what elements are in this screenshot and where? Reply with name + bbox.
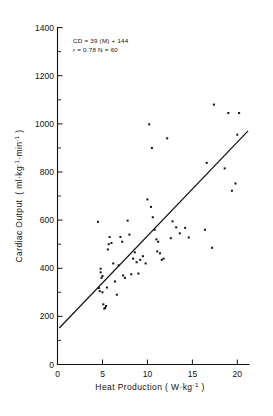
data-point (119, 236, 121, 238)
x-axis-title: Heat Production ( W·kg-1 ) (95, 382, 204, 392)
y-tick-label-1000: 1000 (35, 119, 54, 129)
y-tick-labels: 0 200 400 600 800 1000 1200 1400 (35, 23, 54, 370)
scatter-points-group (97, 104, 240, 310)
data-point (101, 277, 103, 279)
data-point (100, 268, 102, 270)
data-point (238, 112, 240, 114)
data-point (116, 294, 118, 296)
x-tick-labels: 0 5 10 15 20 (55, 369, 242, 379)
data-point (127, 220, 129, 222)
data-point (145, 262, 147, 264)
data-point (155, 238, 157, 240)
plot-canvas: 0 200 400 600 800 1000 1200 1400 0 5 10 … (0, 0, 273, 416)
data-point (224, 167, 226, 169)
data-point (151, 147, 153, 149)
data-point (150, 206, 152, 208)
data-point (148, 123, 150, 125)
data-point (156, 250, 158, 252)
data-point (104, 307, 106, 309)
y-tick-label-800: 800 (40, 167, 54, 177)
scatter-plot-figure: 0 200 400 600 800 1000 1200 1400 0 5 10 … (0, 0, 273, 416)
regression-equation-text: CD = 39 (M) + 144 (73, 37, 129, 44)
x-tick-label-15: 15 (188, 369, 198, 379)
data-point (137, 273, 139, 275)
y-axis-title-unit-close: ) (14, 130, 24, 136)
data-point (139, 259, 141, 261)
data-point (99, 290, 101, 292)
data-point (118, 264, 120, 266)
data-point (170, 237, 172, 239)
data-point (213, 104, 215, 106)
data-point (134, 251, 136, 253)
regression-stats-text: r = 0.78 N = 60 (73, 46, 118, 53)
data-point (159, 252, 161, 254)
x-axis-title-tail: ) (199, 382, 205, 392)
data-point (179, 232, 181, 234)
data-point (114, 280, 116, 282)
data-point (121, 241, 123, 243)
y-tick-label-1200: 1200 (35, 71, 54, 81)
y-axis-title-main: Cardiac Output (14, 199, 24, 262)
y-axis-title: Cardiac Output( ml·kg-1·min-1 ) (14, 130, 24, 263)
data-point (175, 226, 177, 228)
data-point (128, 234, 130, 236)
y-tick-label-0: 0 (49, 360, 54, 370)
data-point (157, 241, 159, 243)
data-point (101, 275, 103, 277)
x-axis-major-ticks (58, 360, 238, 365)
data-point (211, 247, 213, 249)
data-point (105, 305, 107, 307)
data-point (236, 134, 238, 136)
y-axis-title-unit-mid: ·min (14, 142, 24, 160)
data-point (124, 277, 126, 279)
data-point (136, 261, 138, 263)
data-point (146, 198, 148, 200)
y-tick-label-1400: 1400 (35, 23, 54, 33)
data-point (107, 248, 109, 250)
axes-group (58, 28, 250, 365)
y-tick-label-200: 200 (40, 311, 54, 321)
data-point (110, 242, 112, 244)
data-point (112, 262, 114, 264)
data-point (184, 227, 186, 229)
data-point (122, 274, 124, 276)
data-point (108, 243, 110, 245)
data-point (188, 236, 190, 238)
x-tick-label-0: 0 (55, 369, 60, 379)
data-point (100, 271, 102, 273)
y-axis-title-unit-open: ( ml·kg (14, 166, 24, 195)
data-point (172, 220, 174, 222)
data-point (109, 236, 111, 238)
data-point (97, 221, 99, 223)
data-point (132, 258, 134, 260)
svg-text:Cardiac Output( ml·kg-1·min-1: Cardiac Output( ml·kg-1·min-1 ) (14, 130, 24, 263)
data-point (142, 255, 144, 257)
annotation-block: CD = 39 (M) + 144 r = 0.78 N = 60 (73, 37, 129, 53)
svg-text:Heat Production ( W·kg-1 ): Heat Production ( W·kg-1 ) (95, 382, 204, 392)
data-point (204, 229, 206, 231)
data-point (130, 273, 132, 275)
data-point (206, 162, 208, 164)
data-point (227, 112, 229, 114)
data-point (154, 229, 156, 231)
data-point (166, 137, 168, 139)
data-point (101, 291, 103, 293)
x-tick-label-20: 20 (233, 369, 243, 379)
data-point (102, 303, 104, 305)
data-point (161, 259, 163, 261)
x-tick-label-5: 5 (100, 369, 105, 379)
data-point (152, 216, 154, 218)
data-point (235, 183, 237, 185)
data-point (163, 258, 165, 260)
data-point (106, 286, 108, 288)
x-axis-title-main: Heat Production ( W·kg (95, 382, 192, 392)
data-point (98, 287, 100, 289)
y-tick-label-600: 600 (40, 215, 54, 225)
data-point (231, 190, 233, 192)
y-tick-label-400: 400 (40, 263, 54, 273)
x-tick-label-10: 10 (143, 369, 153, 379)
